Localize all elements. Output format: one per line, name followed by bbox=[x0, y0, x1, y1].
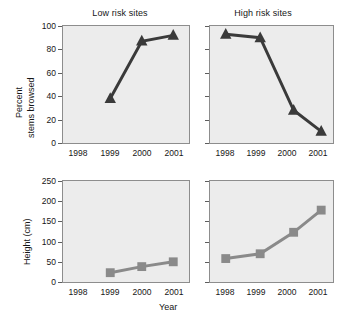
x-tick-label-tr-1999: 1999 bbox=[241, 148, 271, 158]
data-marker-bl-2001 bbox=[169, 257, 178, 266]
x-tick-label-tr-2001: 2001 bbox=[303, 148, 333, 158]
x-tick-label-tl-2000: 2000 bbox=[127, 148, 157, 158]
panel-title-low-risk: Low risk sites bbox=[55, 8, 185, 18]
data-line-high-risk bbox=[226, 34, 321, 131]
data-marker-br-1998 bbox=[221, 254, 230, 263]
data-marker-br-1999 bbox=[256, 249, 265, 258]
data-marker-bl-2000 bbox=[137, 262, 146, 271]
y-tick-label-percent-0: 0 bbox=[34, 138, 56, 148]
y-tick-label-percent-80: 80 bbox=[34, 44, 56, 54]
y-tick-label-height-250: 250 bbox=[30, 176, 56, 186]
panel-title-high-risk: High risk sites bbox=[198, 8, 328, 18]
x-tick-label-bl-1999: 1999 bbox=[95, 287, 125, 297]
y-tick-label-percent-100: 100 bbox=[34, 21, 56, 31]
x-axis-label-year: Year bbox=[159, 302, 177, 312]
y-axis-label-percent-line2: stems browsed bbox=[26, 77, 36, 138]
data-marker-bl-1999 bbox=[106, 268, 115, 277]
y-tick-label-height-200: 200 bbox=[30, 196, 56, 206]
data-line-high-risk-height bbox=[226, 210, 321, 258]
x-tick-label-tl-1998: 1998 bbox=[63, 148, 93, 158]
y-tick-label-height-100: 100 bbox=[30, 237, 56, 247]
y-axis-label-percent-line1: Percent bbox=[14, 87, 24, 118]
x-tick-label-br-1999: 1999 bbox=[241, 287, 271, 297]
x-tick-label-br-1998: 1998 bbox=[210, 287, 240, 297]
plot-area-low-risk-height bbox=[62, 180, 190, 283]
x-tick-label-tr-2000: 2000 bbox=[272, 148, 302, 158]
y-tick-label-percent-20: 20 bbox=[34, 115, 56, 125]
y-tick-label-height-0: 0 bbox=[30, 277, 56, 287]
figure: Low risk sites High risk sites Percent s… bbox=[0, 0, 345, 321]
y-tick-label-percent-40: 40 bbox=[34, 91, 56, 101]
data-marker-br-2000 bbox=[289, 228, 298, 237]
y-tick-label-height-50: 50 bbox=[30, 257, 56, 267]
x-tick-label-bl-1998: 1998 bbox=[63, 287, 93, 297]
x-tick-label-tl-1999: 1999 bbox=[95, 148, 125, 158]
y-tick-label-percent-60: 60 bbox=[34, 68, 56, 78]
x-tick-label-tr-1998: 1998 bbox=[210, 148, 240, 158]
x-tick-label-bl-2001: 2001 bbox=[159, 287, 189, 297]
data-marker-tr-2000 bbox=[288, 104, 299, 115]
x-tick-label-br-2000: 2000 bbox=[272, 287, 302, 297]
plot-area-high-risk-browsed bbox=[209, 25, 334, 144]
x-tick-label-tl-2001: 2001 bbox=[159, 148, 189, 158]
x-tick-label-bl-2000: 2000 bbox=[127, 287, 157, 297]
data-marker-br-2001 bbox=[317, 206, 326, 215]
x-tick-label-br-2001: 2001 bbox=[303, 287, 333, 297]
plot-area-high-risk-height bbox=[209, 180, 334, 283]
data-marker-2001 bbox=[168, 29, 179, 40]
plot-area-low-risk-browsed bbox=[62, 25, 190, 144]
y-tick-label-height-150: 150 bbox=[30, 216, 56, 226]
